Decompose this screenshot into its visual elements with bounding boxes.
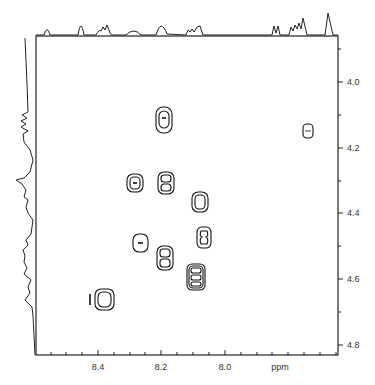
x-tick-label: 8.2 [155,362,168,372]
cross-peak-2 [127,174,143,192]
x-tick-label: 8.0 [219,362,232,372]
top-projection-spectrum [36,13,338,35]
y-axis [338,49,343,345]
y-tick-label: 4.6 [347,274,360,284]
plot-frame [36,36,338,355]
nmr-2d-spectrum: 4.0 4.2 4.4 4.6 4.8 8.4 8.2 8.0 ppm [0,0,375,385]
cross-peak-1 [156,107,172,133]
x-axis-unit-label: ppm [271,362,289,372]
cross-peak-7 [157,246,173,270]
cross-peak-5 [133,234,148,252]
cross-peak-6 [197,227,211,248]
y-tick-label: 4.8 [347,340,360,350]
y-tick-label: 4.4 [347,208,360,218]
y-tick-label: 4.2 [347,143,360,153]
cross-peak-10 [303,124,313,138]
left-projection-spectrum [16,38,35,355]
cross-peak-9 [90,289,114,310]
x-tick-label: 8.4 [92,362,105,372]
cross-peak-8 [187,264,205,290]
cross-peak-3 [158,172,174,194]
x-axis [51,350,336,355]
cross-peaks [90,107,313,310]
cross-peak-4 [192,192,208,212]
y-tick-label: 4.0 [347,77,360,87]
